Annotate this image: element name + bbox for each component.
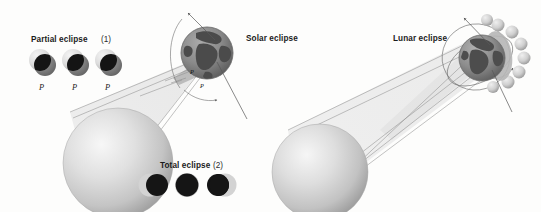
total-eclipse-number: (2) (213, 161, 223, 170)
total-eclipse-icon (175, 173, 199, 197)
total-eclipse-icon (207, 174, 237, 197)
partial-eclipse-p-label: P (71, 83, 77, 92)
total-eclipse-icon (139, 174, 169, 197)
partial-eclipse-icon (29, 49, 56, 76)
earth-globe-solar (181, 27, 233, 80)
solar-eclipse-label: Solar eclipse (246, 34, 298, 43)
shadow-marker-p-lower: P (199, 82, 204, 89)
partial-eclipse-label: Partial eclipse (31, 35, 88, 44)
earth-globe-lunar (459, 35, 505, 81)
lunar-eclipse-scene: Lunar eclipse (272, 14, 531, 212)
lunar-eclipse-label: Lunar eclipse (393, 34, 447, 43)
partial-eclipse-p-label: P (104, 83, 110, 92)
partial-eclipse-icon (95, 49, 122, 76)
eclipse-diagram: P P Solar eclipse Partial eclipse (1) P (0, 0, 541, 212)
partial-eclipse-p-label: P (38, 83, 44, 92)
total-eclipse-label: Total eclipse (160, 161, 211, 170)
partial-eclipse-icon (62, 49, 89, 76)
shadow-marker-p-upper: P (189, 68, 194, 75)
partial-eclipse-number: (1) (101, 35, 111, 44)
partial-eclipse-group: Partial eclipse (1) P P (29, 35, 122, 92)
eclipse-illustration: P P Solar eclipse Partial eclipse (1) P (0, 0, 541, 212)
sun-sphere-solar (63, 108, 173, 212)
